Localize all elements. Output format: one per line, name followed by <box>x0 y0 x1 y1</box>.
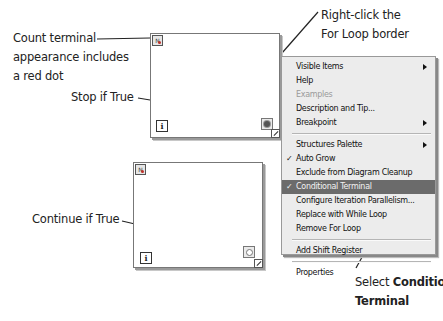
menu-item-add-shift-register[interactable]: Add Shift Register <box>282 244 435 258</box>
note-right-click: Right-click the For Loop border <box>321 6 409 44</box>
resize-handle[interactable] <box>271 129 280 138</box>
menu-item-auto-grow[interactable]: ✓Auto Grow <box>282 152 435 166</box>
note-count-terminal: Count terminal appearance includes a red… <box>13 29 129 86</box>
for-loop-top[interactable]: N i <box>150 33 280 138</box>
continue-icon <box>246 249 253 256</box>
menu-separator <box>292 261 431 263</box>
menu-item-remove-for-loop[interactable]: Remove For Loop <box>282 222 435 236</box>
menu-separator <box>292 239 431 241</box>
count-terminal[interactable]: N <box>135 164 146 175</box>
menu-item-help[interactable]: Help <box>282 74 435 88</box>
iteration-terminal[interactable]: i <box>156 120 168 132</box>
menu-item-structures-palette[interactable]: Structures Palette <box>282 138 435 152</box>
context-menu: Visible Items Help Examples Description … <box>281 56 436 255</box>
menu-item-replace-with-while-loop[interactable]: Replace with While Loop <box>282 208 435 222</box>
submenu-arrow-icon <box>423 142 427 148</box>
submenu-arrow-icon <box>423 64 427 70</box>
for-loop-bottom[interactable]: N i <box>133 162 263 268</box>
menu-item-visible-items[interactable]: Visible Items <box>282 60 435 74</box>
note-continue-if-true: Continue if True <box>32 210 120 229</box>
menu-item-description-and-tip[interactable]: Description and Tip... <box>282 102 435 116</box>
menu-item-examples: Examples <box>282 88 435 102</box>
menu-item-breakpoint[interactable]: Breakpoint <box>282 116 435 130</box>
menu-item-configure-iteration-parallelism[interactable]: Configure Iteration Parallelism... <box>282 194 435 208</box>
red-dot-icon <box>158 41 161 44</box>
submenu-arrow-icon <box>423 120 427 126</box>
check-icon: ✓ <box>286 180 292 194</box>
red-dot-icon <box>141 170 144 173</box>
menu-item-exclude-from-diagram-cleanup[interactable]: Exclude from Diagram Cleanup <box>282 166 435 180</box>
menu-item-properties[interactable]: Properties <box>282 266 435 280</box>
resize-handle[interactable] <box>254 259 263 268</box>
menu-item-conditional-terminal[interactable]: ✓Conditional Terminal <box>282 180 435 194</box>
iteration-terminal[interactable]: i <box>140 252 152 264</box>
count-terminal[interactable]: N <box>152 35 163 46</box>
continue-if-true-terminal[interactable] <box>243 246 255 258</box>
note-stop-if-true: Stop if True <box>71 88 134 107</box>
check-icon: ✓ <box>286 152 292 166</box>
menu-separator <box>292 133 431 135</box>
stop-icon <box>264 121 270 127</box>
